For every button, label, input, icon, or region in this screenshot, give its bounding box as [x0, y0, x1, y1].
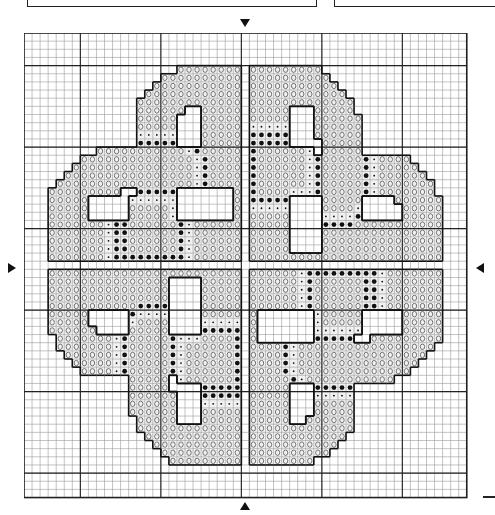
chart-background [24, 33, 467, 498]
page-edge-mark [483, 496, 495, 498]
center-arrow-right-icon [476, 263, 484, 273]
center-arrow-bottom-icon [240, 502, 250, 510]
header-box-right [334, 0, 495, 7]
center-arrow-top-icon [240, 19, 250, 27]
header-box-left [27, 0, 317, 7]
center-arrow-left-icon [8, 263, 16, 273]
cross-stitch-chart [24, 33, 469, 500]
